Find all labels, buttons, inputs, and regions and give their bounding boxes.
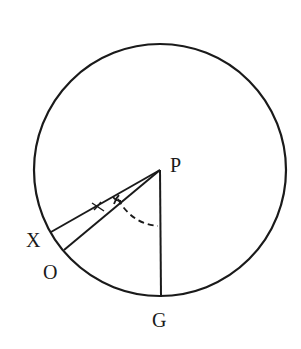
label-p: P xyxy=(170,154,181,176)
segment-pg xyxy=(160,170,161,297)
label-o: O xyxy=(43,261,57,283)
geometry-diagram: P X O G xyxy=(0,0,301,349)
segment-po xyxy=(64,170,160,250)
label-g: G xyxy=(152,309,166,331)
angle-arc-opg xyxy=(118,199,158,226)
label-x: X xyxy=(26,229,41,251)
